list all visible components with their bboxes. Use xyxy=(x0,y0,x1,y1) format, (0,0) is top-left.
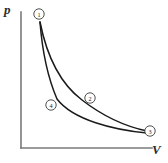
state-node-1-label: 1 xyxy=(37,11,40,18)
state-node-3-label: 3 xyxy=(148,128,151,135)
lower-process-curve xyxy=(40,22,147,133)
curve-label-2: 2 xyxy=(85,93,95,103)
x-axis-label: V xyxy=(152,143,161,156)
y-axis-label: p xyxy=(4,3,11,16)
state-node-1: 1 xyxy=(34,9,44,19)
state-node-3: 3 xyxy=(145,126,155,136)
curve-label-4-text: 4 xyxy=(49,102,52,109)
pv-diagram-figure: 1 2 4 3 p V xyxy=(0,0,168,163)
curve-label-2-text: 2 xyxy=(88,95,91,102)
diagram-canvas: 1 2 4 3 xyxy=(0,0,168,163)
curve-label-4: 4 xyxy=(46,100,56,110)
upper-process-curve xyxy=(40,22,147,131)
